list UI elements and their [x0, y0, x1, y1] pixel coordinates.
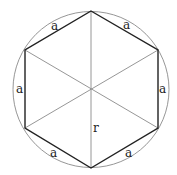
diagonals	[25, 11, 158, 168]
label-side-bottom-right: a	[125, 146, 132, 160]
label-side-top-right: a	[123, 18, 130, 32]
label-side-left: a	[16, 82, 23, 96]
label-side-bottom-left: a	[50, 146, 57, 160]
label-side-right: a	[159, 82, 166, 96]
label-radius: r	[93, 121, 99, 135]
label-side-top-left: a	[51, 19, 58, 33]
hexagon-in-circle-diagram: a a a a a a r	[0, 0, 177, 175]
